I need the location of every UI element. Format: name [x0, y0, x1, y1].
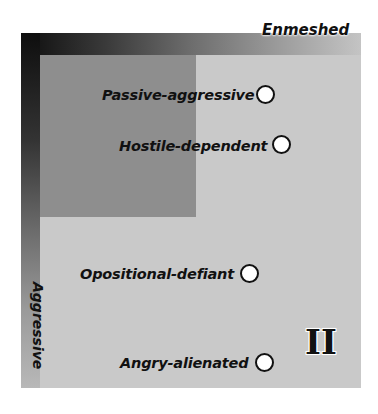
marker-circle-icon	[272, 135, 291, 154]
marker-circle-icon	[240, 264, 259, 283]
marker-circle-icon	[255, 353, 274, 372]
quadrant-number: II	[305, 325, 337, 359]
axis-label-aggressive: Aggressive	[31, 282, 45, 369]
inner-dark-square	[40, 55, 196, 217]
label-passive-aggressive: Passive-aggressive	[102, 88, 254, 103]
marker-circle-icon	[256, 85, 275, 104]
label-opositional-defiant: Opositional-defiant	[80, 267, 234, 282]
label-angry-alienated: Angry-alienated	[120, 356, 248, 371]
axis-label-enmeshed: Enmeshed	[262, 23, 349, 38]
label-hostile-dependent: Hostile-dependent	[119, 139, 267, 154]
